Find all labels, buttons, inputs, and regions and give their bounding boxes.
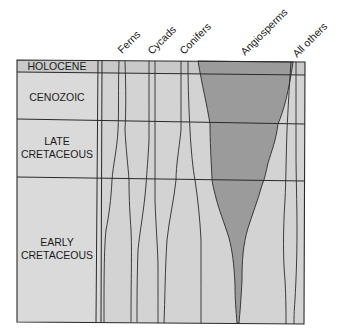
- column-label-conifers: Conifers: [177, 20, 213, 56]
- era-label-early-cretaceous-line1: EARLY: [40, 236, 74, 248]
- era-label-late-cretaceous-line2: CRETACEOUS: [21, 148, 93, 160]
- column-label-all-others: All others: [290, 20, 329, 59]
- era-label-late-cretaceous-line1: LATE: [44, 135, 69, 147]
- column-label-ferns: Ferns: [115, 28, 142, 55]
- plant-diversity-diagram: HOLOCENE CENOZOIC LATE CRETACEOUS EARLY …: [0, 0, 339, 330]
- column-label-angiosperms: Angiosperms: [238, 6, 290, 58]
- era-label-cenozoic: CENOZOIC: [29, 91, 85, 103]
- era-label-holocene: HOLOCENE: [28, 60, 87, 72]
- column-label-cycads: Cycads: [145, 23, 178, 56]
- era-label-early-cretaceous-line2: CRETACEOUS: [21, 249, 93, 261]
